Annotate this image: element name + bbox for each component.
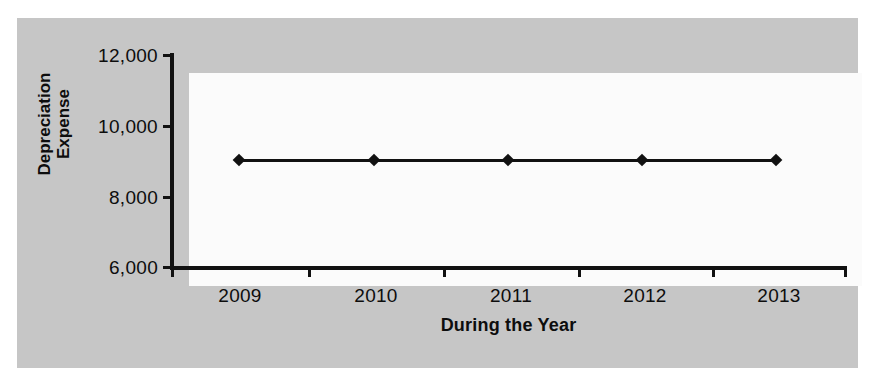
x-tick-0 bbox=[171, 266, 174, 277]
y-tick-8000 bbox=[163, 196, 174, 199]
chart-figure: 12,000 10,000 8,000 6,000 2009 2010 2011… bbox=[0, 0, 880, 381]
plot-area bbox=[189, 73, 862, 286]
x-axis-line bbox=[170, 266, 847, 270]
x-tick-1 bbox=[308, 266, 311, 277]
y-axis-title-line1: Depreciation bbox=[35, 73, 54, 176]
x-tick-3 bbox=[578, 266, 581, 277]
y-axis-line bbox=[170, 53, 174, 270]
x-tick-label-2010: 2010 bbox=[316, 286, 436, 305]
y-axis-title: DepreciationExpense bbox=[35, 24, 73, 224]
x-axis-title: During the Year bbox=[172, 315, 845, 336]
y-tick-label-6000: 6,000 bbox=[58, 258, 158, 277]
x-tick-label-2009: 2009 bbox=[180, 286, 300, 305]
x-tick-5 bbox=[844, 266, 847, 277]
y-axis-title-line2: Expense bbox=[54, 89, 73, 159]
y-tick-12000 bbox=[163, 54, 174, 57]
x-tick-label-2011: 2011 bbox=[451, 286, 571, 305]
x-tick-label-2013: 2013 bbox=[719, 286, 839, 305]
x-tick-label-2012: 2012 bbox=[585, 286, 705, 305]
x-tick-4 bbox=[712, 266, 715, 277]
x-tick-2 bbox=[443, 266, 446, 277]
y-tick-10000 bbox=[163, 125, 174, 128]
